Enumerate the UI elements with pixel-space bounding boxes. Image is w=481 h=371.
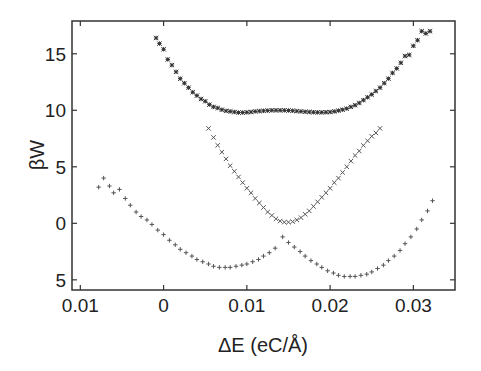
- y-axis-label: βW: [26, 140, 48, 171]
- x-tick-label: 0.01: [62, 295, 99, 316]
- axes-frame: [72, 21, 455, 290]
- y-tick-label: 10: [45, 100, 66, 121]
- x-tick-label: 0.01: [228, 295, 265, 316]
- y-axis: 1510505: [45, 44, 455, 291]
- series-top-curve: [154, 29, 432, 115]
- x-tick-label: 0.02: [312, 295, 349, 316]
- series-middle-curve: [206, 126, 382, 224]
- series-bottom-curve: [96, 176, 434, 279]
- chart: 0.0100.010.020.03 1510505 ΔE (eC/Å) βW: [0, 0, 481, 371]
- y-tick-label: 5: [55, 270, 66, 291]
- y-tick-label: 15: [45, 44, 66, 65]
- x-tick-label: 0: [158, 295, 169, 316]
- x-axis-label: ΔE (eC/Å): [218, 334, 308, 356]
- y-tick-label: 5: [55, 157, 66, 178]
- x-axis: 0.0100.010.020.03: [62, 21, 432, 316]
- plot-area: [96, 29, 434, 279]
- x-tick-label: 0.03: [395, 295, 432, 316]
- y-tick-label: 0: [55, 213, 66, 234]
